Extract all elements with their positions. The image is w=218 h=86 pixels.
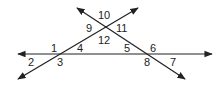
angle-label-5: 5 [124,42,130,54]
angle-label-9: 9 [86,22,92,34]
angle-label-8: 8 [144,56,150,68]
lines-group [18,8,212,79]
angle-label-4: 4 [77,42,83,54]
angle-label-10: 10 [98,9,110,21]
angle-label-11: 11 [116,22,127,34]
angle-diagram: 123456789101112 [0,0,218,86]
angle-label-1: 1 [51,42,57,54]
angle-label-3: 3 [57,56,63,68]
angle-label-7: 7 [170,56,176,68]
angle-label-2: 2 [28,56,34,68]
transversal-falling [77,8,185,79]
angle-label-12: 12 [98,34,110,46]
angle-label-6: 6 [150,42,156,54]
